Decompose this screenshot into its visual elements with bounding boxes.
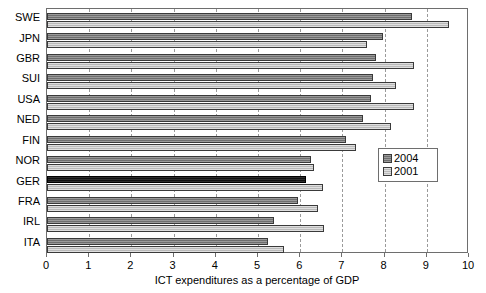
bar-ita-2004 <box>47 238 268 245</box>
y-axis-label-sui: SUI <box>22 73 40 84</box>
x-tick-label-4: 4 <box>203 259 227 271</box>
bar-row-sui <box>47 70 467 90</box>
bar-fra-2004 <box>47 197 298 204</box>
y-axis-label-gbr: GBR <box>16 53 40 64</box>
legend-entry-2001: 2001 <box>383 165 433 178</box>
bar-ned-2001 <box>47 123 391 130</box>
x-tick-label-8: 8 <box>372 259 396 271</box>
x-tick-label-9: 9 <box>414 259 438 271</box>
x-tick-mark-7 <box>341 253 342 257</box>
y-axis-label-nor: NOR <box>16 155 40 166</box>
bar-ger-2001 <box>47 184 323 191</box>
y-axis-category-labels: SWEJPNGBRSUIUSANEDFINNORGERFRAIRLITA <box>0 0 46 293</box>
bar-swe-2004 <box>47 13 412 20</box>
y-axis-label-swe: SWE <box>15 12 40 23</box>
legend-label-2001: 2001 <box>394 165 418 178</box>
bar-ger-2004 <box>47 176 306 183</box>
bar-jpn-2004 <box>47 33 383 40</box>
bar-ita-2001 <box>47 246 284 253</box>
bar-fin-2004 <box>47 136 346 143</box>
x-tick-label-0: 0 <box>34 259 58 271</box>
x-tick-label-5: 5 <box>245 259 269 271</box>
y-axis-label-usa: USA <box>17 94 40 105</box>
bar-sui-2004 <box>47 74 373 81</box>
x-tick-label-6: 6 <box>287 259 311 271</box>
legend-entry-2004: 2004 <box>383 152 433 165</box>
bar-row-usa <box>47 91 467 111</box>
y-axis-label-ned: NED <box>17 114 40 125</box>
y-axis-label-ger: GER <box>16 176 40 187</box>
bar-usa-2004 <box>47 95 371 102</box>
bar-sui-2001 <box>47 82 396 89</box>
x-tick-mark-3 <box>173 253 174 257</box>
x-tick-mark-2 <box>130 253 131 257</box>
y-axis-label-fra: FRA <box>18 196 40 207</box>
y-axis-label-irl: IRL <box>23 216 40 227</box>
plot-area <box>46 8 468 253</box>
legend: 20042001 <box>378 148 438 182</box>
legend-label-2004: 2004 <box>394 152 418 165</box>
bar-irl-2001 <box>47 225 324 232</box>
y-axis-label-jpn: JPN <box>19 33 40 44</box>
bar-fra-2001 <box>47 205 318 212</box>
x-tick-mark-8 <box>384 253 385 257</box>
x-tick-mark-4 <box>215 253 216 257</box>
y-axis-label-ita: ITA <box>24 237 40 248</box>
bar-gbr-2004 <box>47 54 376 61</box>
bar-swe-2001 <box>47 21 449 28</box>
bar-nor-2001 <box>47 164 314 171</box>
bar-row-fra <box>47 193 467 213</box>
bar-jpn-2001 <box>47 41 367 48</box>
bar-fin-2001 <box>47 144 356 151</box>
y-axis-label-fin: FIN <box>22 135 40 146</box>
bar-gbr-2001 <box>47 62 414 69</box>
x-tick-label-7: 7 <box>329 259 353 271</box>
bar-row-ned <box>47 111 467 131</box>
bar-row-swe <box>47 9 467 29</box>
x-tick-label-2: 2 <box>118 259 142 271</box>
x-tick-mark-6 <box>299 253 300 257</box>
x-tick-label-1: 1 <box>76 259 100 271</box>
bar-chart: SWEJPNGBRSUIUSANEDFINNORGERFRAIRLITA 012… <box>0 0 486 293</box>
x-tick-label-3: 3 <box>161 259 185 271</box>
bar-row-jpn <box>47 29 467 49</box>
bar-row-irl <box>47 213 467 233</box>
x-tick-label-10: 10 <box>456 259 480 271</box>
bar-rows <box>47 9 467 252</box>
x-tick-mark-1 <box>88 253 89 257</box>
bar-usa-2001 <box>47 103 414 110</box>
x-axis-title: ICT expenditures as a percentage of GDP <box>46 274 468 287</box>
x-tick-mark-0 <box>46 253 47 257</box>
x-tick-mark-9 <box>426 253 427 257</box>
bar-nor-2004 <box>47 156 311 163</box>
x-tick-mark-10 <box>468 253 469 257</box>
x-tick-mark-5 <box>257 253 258 257</box>
bar-row-ita <box>47 234 467 254</box>
legend-swatch-2001 <box>383 167 392 176</box>
bar-irl-2004 <box>47 217 274 224</box>
bar-row-gbr <box>47 50 467 70</box>
legend-swatch-2004 <box>383 154 392 163</box>
bar-ned-2004 <box>47 115 363 122</box>
